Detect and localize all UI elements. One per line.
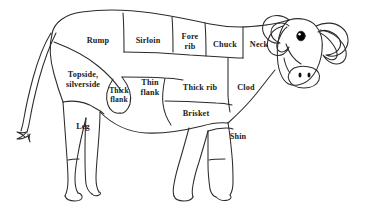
divider-thickrib-brisket <box>165 101 232 105</box>
belly-line <box>100 112 228 133</box>
ear-right <box>320 30 346 64</box>
divider-forerib-chuck <box>205 23 206 56</box>
hind-leg-near-front <box>75 118 86 193</box>
eye-highlight <box>298 33 300 36</box>
divider-thinflank-top <box>122 77 183 80</box>
front-leg-far-front <box>192 131 208 197</box>
cheek-crease <box>286 44 301 64</box>
neck-underline <box>228 70 275 123</box>
front-hoof-far <box>174 196 193 201</box>
nostril-left <box>299 72 302 77</box>
divider-thickrib-clod <box>228 58 230 112</box>
nostril-right <box>308 72 311 77</box>
front-leg-far-back <box>173 128 189 196</box>
front-leg-near-knee <box>209 159 225 160</box>
divider-topside-rump <box>54 42 122 92</box>
beef-cuts-diagram-page: Rump Sirloin Forerib Chuck Neck Topside,… <box>0 0 368 210</box>
hind-hoof-near <box>65 193 82 201</box>
hind-hoof-far <box>92 192 101 196</box>
hind-leg-far-front <box>96 112 100 192</box>
front-leg-near-front <box>228 123 233 195</box>
tail-outer <box>21 33 51 131</box>
horn-right <box>316 23 348 56</box>
tail-tuft-3 <box>28 134 30 142</box>
hind-leg-near-back <box>63 102 68 196</box>
body-topline <box>52 10 266 34</box>
jaw-crease <box>284 58 290 73</box>
divider-loin-horizontal <box>124 52 243 58</box>
divider-thickflank-right <box>120 77 131 113</box>
front-leg-near-back <box>208 131 216 197</box>
hind-leg-far-back <box>85 118 92 194</box>
eye <box>297 31 305 41</box>
front-hoof-near <box>216 195 231 200</box>
divider-thickflank-left <box>107 79 120 113</box>
tail-tuft-2 <box>17 133 28 139</box>
divider-rump-sirloin <box>123 13 124 52</box>
divider-sirloin-forerib <box>172 17 173 52</box>
rump-rear-contour <box>50 34 63 102</box>
divider-leg <box>63 101 104 114</box>
cow-diagram <box>0 0 368 210</box>
muzzle <box>288 67 319 89</box>
